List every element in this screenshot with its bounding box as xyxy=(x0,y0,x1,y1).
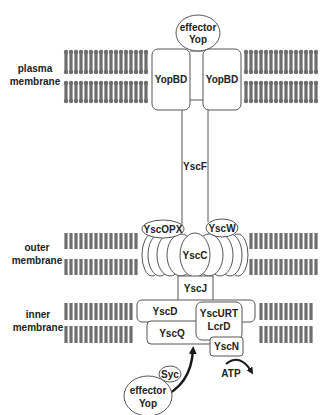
svg-text:membrane: membrane xyxy=(10,76,61,87)
yscopx: YscOPX xyxy=(142,220,184,238)
svg-text:plasma: plasma xyxy=(18,63,53,74)
effector-yop-top: effector Yop xyxy=(176,15,220,51)
svg-text:YscOPX: YscOPX xyxy=(144,224,183,235)
svg-text:effector: effector xyxy=(130,385,167,396)
svg-text:LcrD: LcrD xyxy=(208,321,231,332)
svg-text:YscJ: YscJ xyxy=(184,283,207,294)
svg-text:effector: effector xyxy=(180,22,217,33)
yopbd-left: YopBD xyxy=(152,49,190,110)
svg-text:membrane: membrane xyxy=(13,322,64,333)
diagram-canvas: plasma membrane outer membrane inner mem… xyxy=(0,0,328,415)
yscf-needle: YscF xyxy=(182,100,208,227)
yscw: YscW xyxy=(206,219,238,237)
svg-text:YscQ: YscQ xyxy=(159,328,185,339)
svg-text:YscF: YscF xyxy=(183,161,207,172)
yscurt-lcrd: YscURT LcrD xyxy=(196,302,242,340)
svg-text:YscW: YscW xyxy=(208,223,236,234)
yscc-secretin-ring: YscC xyxy=(142,233,248,277)
effector-yop-bottom: effector Yop xyxy=(124,376,172,415)
yscn-atpase: YscN xyxy=(210,337,243,356)
svg-text:inner: inner xyxy=(26,309,51,320)
svg-text:Yop: Yop xyxy=(139,398,157,409)
svg-text:ATP: ATP xyxy=(221,368,241,379)
atp-arrow: ATP xyxy=(221,360,251,379)
svg-text:Syc: Syc xyxy=(161,369,179,380)
outer-membrane-label: outer membrane xyxy=(12,242,63,266)
svg-text:YopBD: YopBD xyxy=(155,74,188,85)
svg-text:membrane: membrane xyxy=(12,255,63,266)
svg-text:YscD: YscD xyxy=(152,306,177,317)
yopbd-right: YopBD xyxy=(203,49,241,110)
svg-text:YopBD: YopBD xyxy=(206,74,239,85)
yscj: YscJ xyxy=(178,276,213,301)
plasma-membrane-label: plasma membrane xyxy=(10,63,61,87)
svg-text:Yop: Yop xyxy=(189,34,207,45)
inner-membrane-label: inner membrane xyxy=(13,309,64,333)
svg-text:outer: outer xyxy=(25,242,50,253)
svg-text:YscN: YscN xyxy=(214,341,239,352)
svg-text:YscC: YscC xyxy=(182,250,207,261)
t3ss-diagram: plasma membrane outer membrane inner mem… xyxy=(0,0,328,415)
svg-text:YscURT: YscURT xyxy=(200,308,238,319)
